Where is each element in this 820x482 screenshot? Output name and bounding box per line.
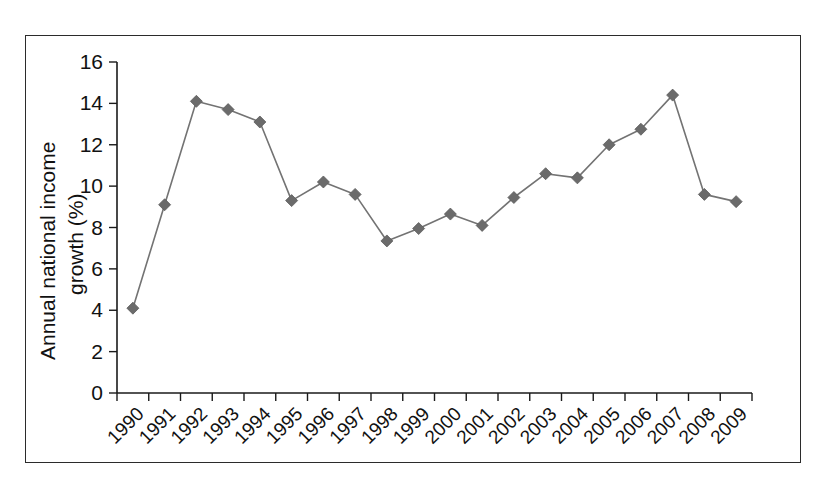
data-point-marker [159,199,171,211]
series-line [133,95,736,308]
y-tick-label: 2 [91,340,103,363]
x-axis-tick-labels: 1990199119921993199419951996199719981999… [103,403,751,448]
data-point-marker [730,196,742,208]
y-tick-label: 16 [80,50,103,73]
data-point-marker [190,95,202,107]
y-tick-label: 0 [91,381,103,404]
x-axis-ticks [117,393,752,401]
y-tick-label: 14 [80,91,104,114]
data-point-marker [413,223,425,235]
data-point-marker [317,176,329,188]
data-point-marker [127,302,139,314]
figure-root: Annual national income growth (%) 024681… [0,0,820,482]
y-axis-title-line-2: growth (%) [64,193,87,295]
x-tick-label: 2009 [706,403,751,448]
y-axis-title-line-1: Annual national income [36,142,59,360]
data-point-marker [254,116,266,128]
y-tick-label: 8 [91,216,103,239]
data-point-marker [540,168,552,180]
y-tick-label: 12 [80,133,103,156]
series-layer [127,89,742,314]
line-chart: Annual national income growth (%) 024681… [0,0,820,482]
data-point-marker [286,195,298,207]
data-point-marker [349,188,361,200]
data-point-marker [698,188,710,200]
y-tick-label: 10 [80,174,103,197]
data-point-marker [381,235,393,247]
y-tick-label: 4 [91,298,103,321]
data-point-marker [444,208,456,220]
y-tick-label: 6 [91,257,103,280]
data-point-marker [222,104,234,116]
